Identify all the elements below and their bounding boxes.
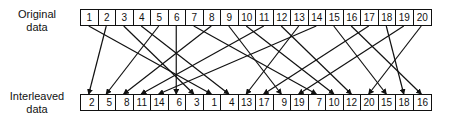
- original-cell: 5: [151, 10, 169, 25]
- original-cell: 19: [396, 10, 414, 25]
- interleaved-cell: 5: [99, 95, 117, 110]
- interleaved-cell: 17: [256, 95, 274, 110]
- original-cell: 7: [186, 10, 204, 25]
- interleaved-cell: 18: [396, 95, 414, 110]
- interleaved-cell: 7: [309, 95, 327, 110]
- original-cell: 10: [239, 10, 257, 25]
- original-cell: 16: [344, 10, 362, 25]
- interleaved-cell: 19: [291, 95, 309, 110]
- interleaved-cell: 15: [379, 95, 397, 110]
- interleaved-cell: 2: [81, 95, 99, 110]
- original-cell: 17: [361, 10, 379, 25]
- interleaved-cell: 1: [204, 95, 222, 110]
- original-cell: 2: [99, 10, 117, 25]
- original-cell: 18: [379, 10, 397, 25]
- interleaved-cell: 10: [326, 95, 344, 110]
- original-cell: 9: [221, 10, 239, 25]
- interleaved-cell: 16: [414, 95, 432, 110]
- original-data-row: 1 2 3 4 5 6 7 8 9 10 11 12 13 14 15 16 1…: [80, 9, 432, 26]
- original-cell: 20: [414, 10, 432, 25]
- interleaved-cell: 6: [169, 95, 187, 110]
- interleaved-cell: 14: [151, 95, 169, 110]
- interleaved-cell: 4: [221, 95, 239, 110]
- original-cell: 14: [309, 10, 327, 25]
- original-cell: 15: [326, 10, 344, 25]
- original-cell: 8: [204, 10, 222, 25]
- interleaved-cell: 9: [274, 95, 292, 110]
- original-cell: 11: [256, 10, 274, 25]
- interleaved-data-row: 2 5 8 11 14 6 3 1 4 13 17 9 19 7 10 12 2…: [80, 94, 432, 111]
- original-cell: 6: [169, 10, 187, 25]
- original-cell: 1: [81, 10, 99, 25]
- original-cell: 4: [134, 10, 152, 25]
- interleaved-cell: 20: [361, 95, 379, 110]
- interleaved-cell: 12: [344, 95, 362, 110]
- interleaved-cell: 13: [239, 95, 257, 110]
- interleaved-cell: 3: [186, 95, 204, 110]
- original-cell: 3: [116, 10, 134, 25]
- interleaved-cell: 8: [116, 95, 134, 110]
- original-cell: 12: [274, 10, 292, 25]
- original-cell: 13: [291, 10, 309, 25]
- interleaved-cell: 11: [134, 95, 152, 110]
